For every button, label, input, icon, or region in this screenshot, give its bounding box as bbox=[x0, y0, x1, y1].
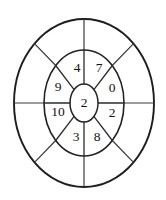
outer-spoke-up-left bbox=[35, 44, 56, 66]
segment-label-right-upper: 0 bbox=[109, 80, 116, 95]
segment-label-bottom-right: 8 bbox=[94, 129, 101, 144]
middle-spoke-down-left bbox=[56, 116, 74, 140]
segment-label-top-left: 4 bbox=[74, 60, 81, 75]
segment-label-top-right: 7 bbox=[96, 60, 103, 75]
segment-label-bottom-left: 3 bbox=[73, 129, 80, 144]
number-wheel-diagram: 4 7 0 2 8 3 10 9 2 bbox=[0, 0, 166, 200]
segment-label-left-upper: 9 bbox=[55, 79, 62, 94]
segment-label-right-lower: 2 bbox=[109, 105, 116, 120]
outer-spoke-down-left bbox=[35, 141, 56, 163]
outer-spoke-up-right bbox=[112, 44, 133, 66]
wheel-svg: 4 7 0 2 8 3 10 9 2 bbox=[0, 0, 166, 200]
segment-label-left-lower: 10 bbox=[51, 104, 65, 119]
center-hub-label: 2 bbox=[81, 95, 88, 110]
outer-spoke-down-right bbox=[112, 141, 133, 163]
